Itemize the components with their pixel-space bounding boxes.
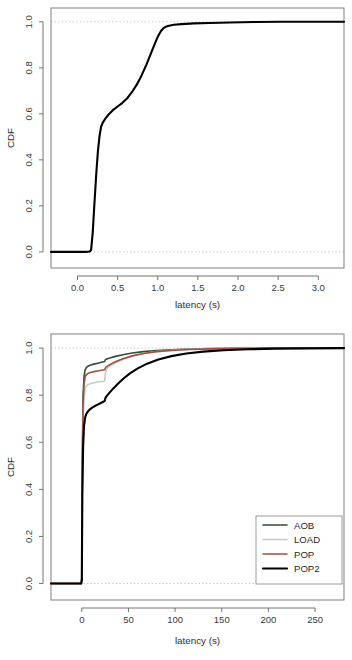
y-tick-label: 0.2 bbox=[24, 530, 35, 543]
y-axis-title: CDF bbox=[5, 457, 16, 477]
legend-label-load: LOAD bbox=[294, 534, 320, 545]
x-tick-label: 0.0 bbox=[71, 282, 84, 293]
chart-legend: AOBLOADPOPPOP2 bbox=[256, 516, 342, 584]
x-tick-label: 200 bbox=[260, 614, 276, 625]
legend-label-pop: POP bbox=[294, 549, 314, 560]
bottom-chart-panel: 0.00.20.40.60.81.0CDF050100150200250late… bbox=[0, 322, 352, 660]
x-tick-label: 1.5 bbox=[191, 282, 204, 293]
x-tick-label: 0 bbox=[79, 614, 84, 625]
x-tick-label: 0.5 bbox=[111, 282, 124, 293]
y-tick-label: 0.8 bbox=[24, 61, 35, 74]
top-chart-panel: 0.00.20.40.60.81.0CDF0.00.51.01.52.02.53… bbox=[0, 0, 352, 322]
x-tick-label: 2.0 bbox=[231, 282, 244, 293]
x-tick-label: 3.0 bbox=[312, 282, 325, 293]
x-tick-label: 1.0 bbox=[151, 282, 164, 293]
x-tick-label: 250 bbox=[307, 614, 323, 625]
x-axis-title: latency (s) bbox=[175, 299, 220, 310]
y-tick-label: 0.4 bbox=[24, 483, 35, 496]
y-tick-label: 0.8 bbox=[24, 389, 35, 402]
x-axis-title: latency (s) bbox=[175, 635, 220, 646]
x-tick-label: 50 bbox=[123, 614, 134, 625]
legend-label-pop2: POP2 bbox=[294, 563, 320, 574]
series-line-latency-cdf bbox=[51, 22, 344, 252]
y-tick-label: 0.2 bbox=[24, 199, 35, 212]
top-cdf-chart: 0.00.20.40.60.81.0CDF0.00.51.01.52.02.53… bbox=[0, 0, 352, 322]
y-tick-label: 1.0 bbox=[24, 15, 35, 28]
legend-label-aob: AOB bbox=[294, 520, 314, 531]
bottom-cdf-chart: 0.00.20.40.60.81.0CDF050100150200250late… bbox=[0, 322, 352, 660]
y-tick-label: 1.0 bbox=[24, 342, 35, 355]
plot-frame bbox=[51, 8, 344, 268]
y-tick-label: 0.0 bbox=[24, 245, 35, 258]
y-tick-label: 0.6 bbox=[24, 436, 35, 449]
x-tick-label: 150 bbox=[214, 614, 230, 625]
y-axis-title: CDF bbox=[5, 128, 16, 148]
y-tick-label: 0.4 bbox=[24, 153, 35, 166]
x-tick-label: 100 bbox=[167, 614, 183, 625]
y-tick-label: 0.0 bbox=[24, 577, 35, 590]
x-tick-label: 2.5 bbox=[272, 282, 285, 293]
y-tick-label: 0.6 bbox=[24, 107, 35, 120]
